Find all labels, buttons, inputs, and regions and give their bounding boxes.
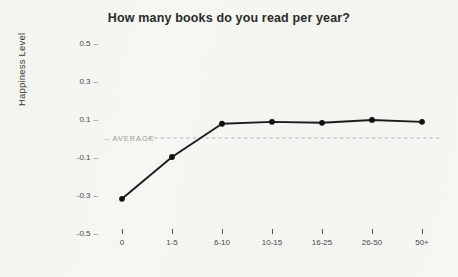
plot-area [0,0,458,277]
data-point-6-10 [219,121,225,127]
average-label-text: AVERAGE [113,134,155,143]
average-line-label: -- AVERAGE [104,134,155,143]
data-point-0 [119,196,125,202]
data-point-50+ [419,119,425,125]
data-point-1-5 [169,154,175,160]
data-point-26-50 [369,117,375,123]
data-point-markers [119,117,425,202]
happiness-line-series [122,120,422,199]
average-label-dashes: -- [104,134,110,143]
data-point-16-25 [319,120,325,126]
data-point-10-15 [269,119,275,125]
chart-container: How many books do you read per year? Hap… [0,0,458,277]
